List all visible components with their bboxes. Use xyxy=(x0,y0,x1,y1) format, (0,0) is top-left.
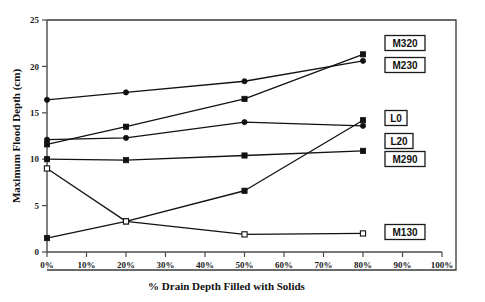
data-point-m320 xyxy=(360,52,365,57)
series-line-m290 xyxy=(47,151,363,160)
data-point-m130 xyxy=(44,166,49,171)
y-tick-label: 25 xyxy=(30,15,40,25)
data-point-m130 xyxy=(123,219,128,224)
data-point-m290 xyxy=(44,157,49,162)
data-point-l20 xyxy=(360,123,365,128)
x-tick-label: 80% xyxy=(354,260,372,270)
y-tick-label: 5 xyxy=(35,201,40,211)
x-tick-label: 10% xyxy=(78,260,96,270)
y-tick-label: 0 xyxy=(35,247,40,257)
data-point-m320 xyxy=(242,96,247,101)
data-point-m230 xyxy=(44,97,49,102)
series-label-l20: L20 xyxy=(385,134,413,149)
chart-container: 05101520250%10%20%30%40%50%60%70%80%90%1… xyxy=(0,0,485,302)
series-label-text: M230 xyxy=(392,60,417,71)
data-point-l20 xyxy=(44,137,49,142)
data-point-l20 xyxy=(123,135,128,140)
series-label-boxes: M320M230L0L20M290M130 xyxy=(385,36,425,240)
series-label-m230: M230 xyxy=(385,58,425,73)
data-series-group xyxy=(47,54,363,238)
x-axis-title: % Drain Depth Filled with Solids xyxy=(148,280,305,292)
x-tick-label: 90% xyxy=(394,260,412,270)
data-point-m290 xyxy=(242,153,247,158)
data-point-m230 xyxy=(123,90,128,95)
data-point-l0 xyxy=(44,235,49,240)
series-line-m230 xyxy=(47,61,363,100)
x-tick-label: 40% xyxy=(196,260,214,270)
data-point-l0 xyxy=(360,118,365,123)
series-line-l20 xyxy=(47,122,363,140)
flood-depth-line-chart: 05101520250%10%20%30%40%50%60%70%80%90%1… xyxy=(0,0,485,302)
series-label-text: M130 xyxy=(392,227,417,238)
series-line-l0 xyxy=(47,120,363,238)
x-tick-label: 30% xyxy=(157,260,175,270)
series-label-text: L0 xyxy=(390,113,402,124)
data-markers-group xyxy=(44,52,365,241)
x-tick-label: 50% xyxy=(236,260,254,270)
series-label-l0: L0 xyxy=(385,111,407,126)
x-tick-label: 60% xyxy=(275,260,293,270)
series-line-m320 xyxy=(47,54,363,144)
data-point-m230 xyxy=(242,79,247,84)
data-point-m290 xyxy=(123,158,128,163)
x-tick-label: 20% xyxy=(117,260,135,270)
y-axis-title: Maximum Flood Depth (cm) xyxy=(10,69,23,203)
series-label-text: M320 xyxy=(392,38,417,49)
series-label-m290: M290 xyxy=(385,152,425,167)
series-label-text: L20 xyxy=(390,136,408,147)
data-point-m130 xyxy=(242,232,247,237)
x-tick-label: 100% xyxy=(431,260,454,270)
data-point-l20 xyxy=(242,119,247,124)
data-point-m130 xyxy=(360,231,365,236)
data-point-l0 xyxy=(242,188,247,193)
x-tick-label: 70% xyxy=(315,260,333,270)
y-tick-label: 10 xyxy=(30,154,40,164)
data-point-m230 xyxy=(360,58,365,63)
x-tick-label: 0% xyxy=(40,260,54,270)
series-label-m320: M320 xyxy=(385,36,425,51)
series-label-text: M290 xyxy=(392,154,417,165)
y-tick-label: 15 xyxy=(30,108,40,118)
data-point-m320 xyxy=(123,124,128,129)
series-label-m130: M130 xyxy=(385,225,425,240)
y-tick-label: 20 xyxy=(30,62,40,72)
data-point-m290 xyxy=(360,148,365,153)
